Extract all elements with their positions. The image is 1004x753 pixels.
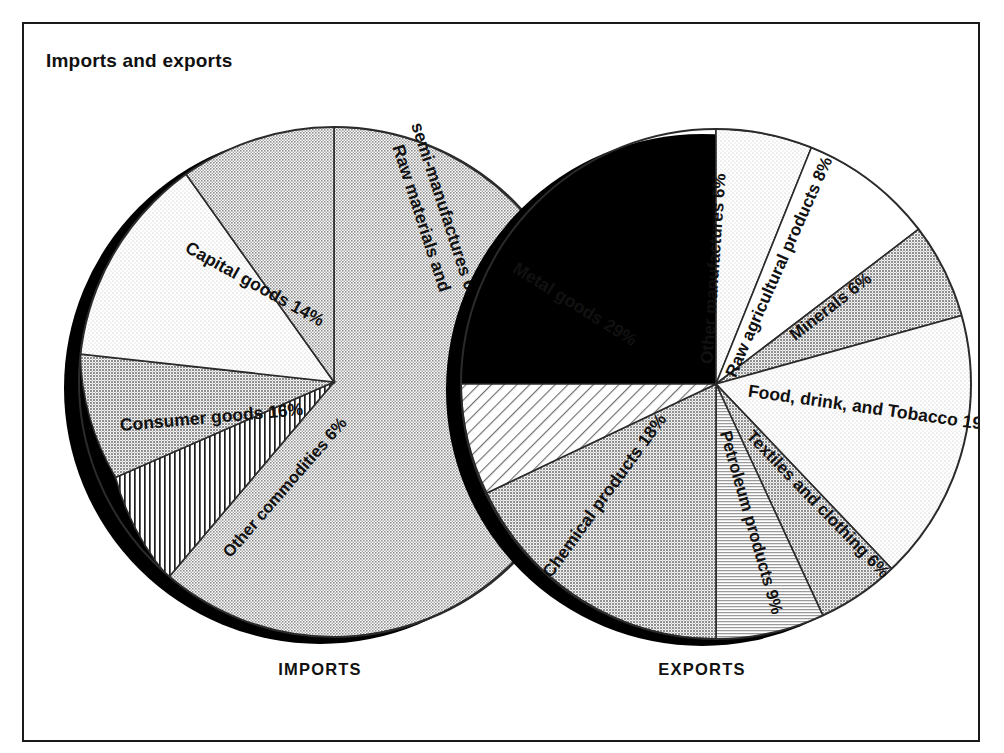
imports-caption: IMPORTS (278, 660, 362, 678)
pie-chart-canvas: Raw materials and semi-manufactures 64% … (24, 24, 980, 742)
exports-caption: EXPORTS (658, 660, 745, 678)
exports-pie: Metal goods 29% Other manufactures 6% Ra… (446, 127, 980, 646)
figure-panel: Imports and exports (22, 22, 980, 742)
